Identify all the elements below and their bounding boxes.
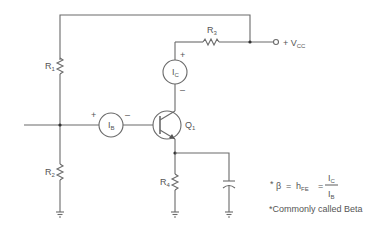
beta-formula: * β = hFE = IC IB	[270, 173, 338, 200]
svg-text:=: =	[318, 181, 323, 191]
label-q1: Q1	[185, 120, 196, 131]
label-r2: R2	[45, 167, 56, 178]
footnote: *Commonly called Beta	[269, 204, 363, 214]
svg-text:IC: IC	[328, 173, 336, 184]
ground-icon	[225, 212, 233, 217]
ground-icon	[56, 212, 64, 217]
resistor-r2	[57, 164, 63, 180]
top-wire	[60, 15, 250, 60]
circuit-schematic: R1 R2 R3 R4 Q1 IB + – IC + – + VCC * β =…	[0, 0, 374, 235]
resistor-r1	[57, 58, 63, 74]
svg-text:*: *	[270, 179, 274, 189]
svg-text:β: β	[276, 181, 281, 191]
label-r4: R4	[160, 177, 171, 188]
ib-plus: +	[91, 110, 96, 120]
transistor-q1	[153, 111, 181, 139]
ic-minus: –	[180, 85, 185, 95]
resistor-r4	[172, 174, 178, 190]
junction-dot	[58, 123, 61, 126]
label-vcc: + VCC	[283, 38, 306, 49]
ib-minus: –	[125, 110, 130, 120]
label-r1: R1	[45, 61, 56, 72]
svg-text:IB: IB	[328, 189, 335, 200]
vcc-terminal	[274, 40, 279, 45]
svg-text:hFE: hFE	[296, 181, 309, 192]
ic-plus: +	[180, 50, 185, 60]
label-r3: R3	[207, 25, 218, 36]
resistor-r3	[203, 39, 219, 45]
ground-icon	[171, 212, 179, 217]
svg-text:=: =	[286, 181, 291, 191]
